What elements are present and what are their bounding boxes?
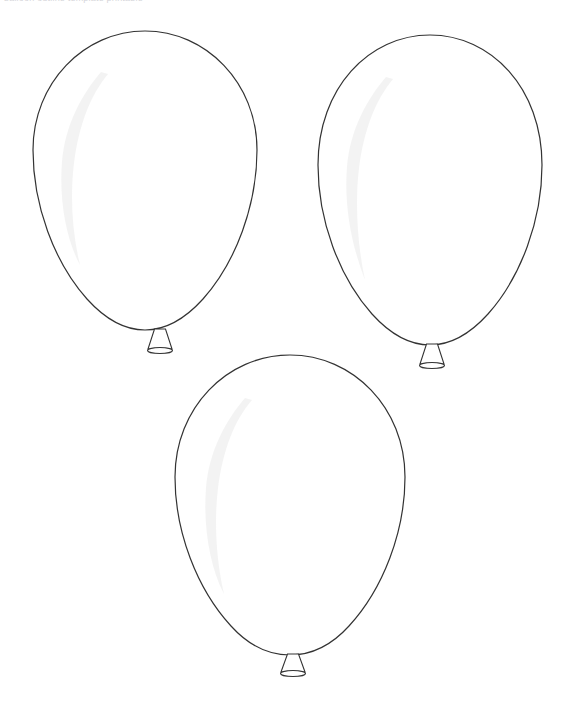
balloon-3-neck[interactable] [281, 654, 305, 672]
coloring-page-canvas: balloon outline template printable [0, 0, 572, 710]
balloon-2[interactable] [318, 35, 542, 369]
balloon-3[interactable] [175, 355, 405, 677]
balloon-1[interactable] [33, 31, 257, 354]
balloon-3-neck-lip [281, 671, 306, 677]
balloons-artboard [0, 0, 572, 710]
balloon-1-neck[interactable] [148, 329, 172, 349]
balloon-2-neck-lip [420, 363, 445, 369]
balloon-1-neck-lip [148, 348, 173, 354]
balloon-2-neck[interactable] [420, 344, 444, 364]
